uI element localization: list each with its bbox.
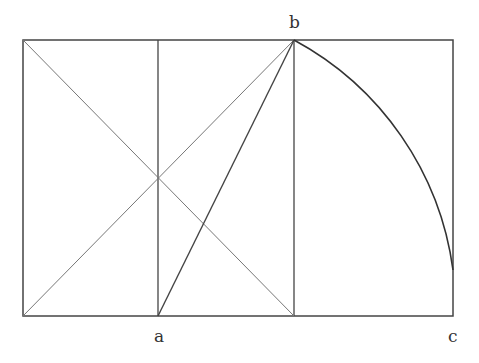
arc-b-to-c: [294, 40, 453, 270]
label-a: a: [154, 326, 164, 346]
label-b: b: [289, 12, 300, 32]
line-a-b: [158, 40, 294, 316]
label-c: c: [448, 326, 458, 346]
outer-rectangle: [23, 40, 453, 316]
golden-rectangle-diagram: b a c: [0, 0, 479, 363]
